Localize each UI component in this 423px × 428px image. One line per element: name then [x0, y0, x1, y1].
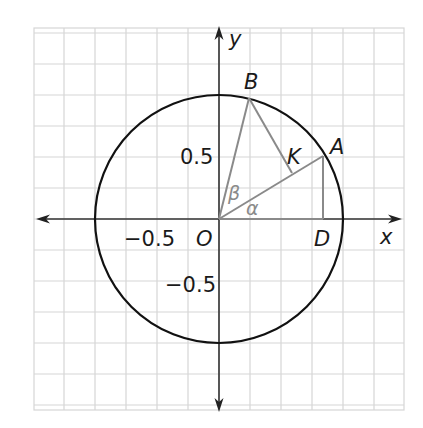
- tick-label-y-neg-0.5: −0.5: [165, 273, 216, 297]
- point-label-A: A: [328, 135, 344, 159]
- x-axis-label: x: [379, 225, 393, 249]
- tick-label-x-neg-0.5: −0.5: [124, 227, 175, 251]
- point-label-B: B: [244, 70, 258, 94]
- y-axis-label: y: [228, 27, 242, 51]
- angle-label-alpha: α: [246, 197, 259, 219]
- point-label-D: D: [314, 227, 330, 251]
- unit-circle-diagram: y x B A K O D 0.5 −0.5 −0.5 β α: [0, 0, 423, 428]
- angle-label-beta: β: [227, 182, 240, 204]
- point-label-K: K: [287, 145, 303, 169]
- point-label-O: O: [196, 227, 213, 251]
- segment-BK: [249, 98, 292, 173]
- tick-label-y-0.5: 0.5: [180, 145, 213, 169]
